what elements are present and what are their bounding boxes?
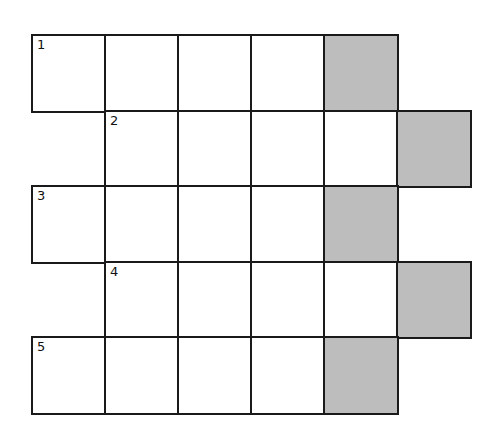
shaded-cell (396, 110, 472, 188)
shaded-cell (323, 336, 399, 415)
grid-cell[interactable] (104, 185, 180, 264)
shaded-cell (323, 34, 399, 113)
grid-cell[interactable] (177, 261, 253, 339)
grid-cell[interactable] (250, 185, 326, 264)
grid-cell[interactable] (177, 185, 253, 264)
grid-cell[interactable] (323, 261, 399, 339)
shaded-cell (323, 185, 399, 264)
grid-cell[interactable] (177, 34, 253, 113)
clue-number: 1 (37, 38, 45, 51)
grid-cell[interactable] (250, 336, 326, 415)
clue-number: 5 (37, 340, 45, 353)
grid-cell[interactable]: 5 (31, 336, 107, 415)
grid-cell[interactable] (250, 34, 326, 113)
shaded-cell (396, 261, 472, 339)
clue-number: 2 (110, 114, 118, 127)
grid-cell[interactable] (104, 336, 180, 415)
grid-cell[interactable]: 4 (104, 261, 180, 339)
grid-cell[interactable]: 1 (31, 34, 107, 113)
grid-cell[interactable] (250, 261, 326, 339)
clue-number: 3 (37, 189, 45, 202)
clue-number: 4 (110, 265, 118, 278)
grid-cell[interactable]: 2 (104, 110, 180, 188)
grid-cell[interactable] (250, 110, 326, 188)
grid-cell[interactable] (104, 34, 180, 113)
grid-cell[interactable] (177, 336, 253, 415)
grid-cell[interactable] (323, 110, 399, 188)
grid-cell[interactable] (177, 110, 253, 188)
grid-cell[interactable]: 3 (31, 185, 107, 264)
